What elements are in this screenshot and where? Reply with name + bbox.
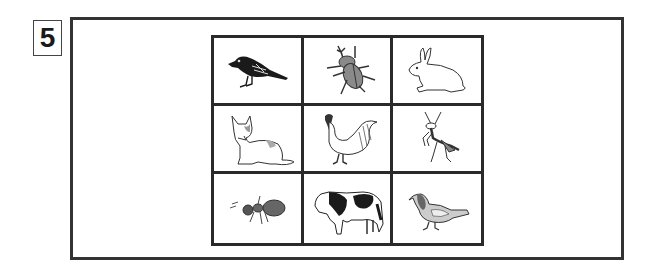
cell-rooster xyxy=(304,106,393,174)
cell-mantis xyxy=(393,106,481,174)
crow-icon xyxy=(218,42,298,100)
pigeon-icon xyxy=(397,180,477,238)
cell-cat xyxy=(214,106,304,174)
beetle-icon xyxy=(307,42,387,100)
cell-ant xyxy=(214,174,304,243)
mantis-icon xyxy=(397,110,477,168)
cat-icon xyxy=(218,110,298,168)
cell-beetle xyxy=(304,38,393,106)
cow-icon xyxy=(307,180,387,238)
rooster-icon xyxy=(307,110,387,168)
cell-cow xyxy=(304,174,393,243)
cell-pigeon xyxy=(393,174,481,243)
cell-rabbit xyxy=(393,38,481,106)
ant-icon xyxy=(218,180,298,238)
cell-crow xyxy=(214,38,304,106)
question-number: 5 xyxy=(33,20,62,56)
animal-grid xyxy=(211,35,484,246)
rabbit-icon xyxy=(397,42,477,100)
